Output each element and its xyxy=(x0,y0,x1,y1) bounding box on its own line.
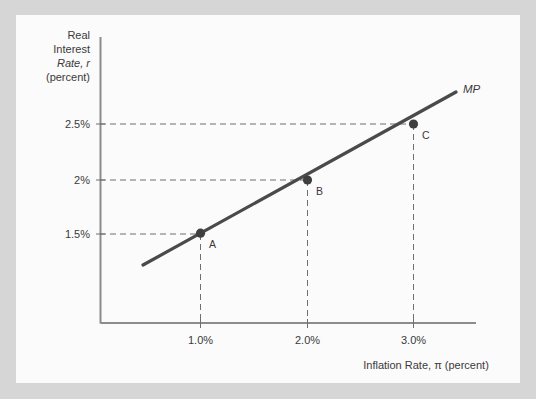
y-tick-label-2-5: 2.5% xyxy=(65,118,90,130)
data-point-c xyxy=(409,119,418,128)
data-point-a xyxy=(196,229,205,238)
x-axis-title: Inflation Rate, π (percent) xyxy=(363,359,489,371)
y-tick-label-1-5: 1.5% xyxy=(65,228,90,240)
figure-card: A B C MP 2.5% 2% 1.5% 1.0% 2.0% 3.0% Rea… xyxy=(16,15,520,383)
y-axis-title-line-2: Interest xyxy=(53,43,90,55)
data-point-label-b: B xyxy=(316,185,323,197)
data-point-label-a: A xyxy=(209,238,216,250)
figure-page: A B C MP 2.5% 2% 1.5% 1.0% 2.0% 3.0% Rea… xyxy=(0,0,536,399)
y-tick-label-2: 2% xyxy=(74,174,90,186)
data-point-label-c: C xyxy=(422,129,430,141)
x-tick-label-2-0: 2.0% xyxy=(295,334,320,346)
data-point-b xyxy=(303,175,312,184)
mp-curve-chart: A B C MP 2.5% 2% 1.5% 1.0% 2.0% 3.0% Rea… xyxy=(16,15,520,383)
y-axis-title-line-1: Real xyxy=(67,29,90,41)
mp-curve-line xyxy=(143,92,456,265)
y-axis-title-line-3: Rate, r xyxy=(57,57,91,69)
x-tick-label-3-0: 3.0% xyxy=(401,334,426,346)
x-tick-label-1-0: 1.0% xyxy=(188,334,213,346)
mp-curve-label: MP xyxy=(463,83,481,95)
y-axis-title-line-4: (percent) xyxy=(46,71,90,83)
